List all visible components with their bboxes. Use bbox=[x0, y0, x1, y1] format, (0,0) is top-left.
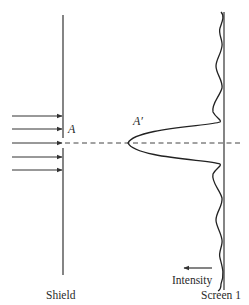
label-intensity: Intensity bbox=[172, 274, 212, 287]
label-screen-1: Screen 1 bbox=[201, 289, 241, 301]
incident-rays bbox=[12, 116, 62, 170]
label-a-prime: A′ bbox=[132, 114, 143, 128]
label-shield: Shield bbox=[46, 289, 76, 301]
intensity-curve bbox=[128, 12, 223, 291]
label-a: A bbox=[67, 122, 76, 136]
diffraction-diagram: A A′ Intensity Shield Screen 1 bbox=[0, 0, 249, 305]
